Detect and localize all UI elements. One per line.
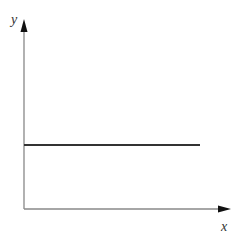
x-axis-arrowhead-icon — [218, 206, 231, 213]
x-axis — [24, 206, 231, 213]
y-axis-label: y — [9, 12, 18, 27]
y-axis-arrowhead-icon — [21, 19, 28, 32]
y-axis — [21, 19, 28, 209]
x-axis-label: x — [220, 219, 228, 234]
constant-function-diagram: y x — [0, 0, 243, 235]
